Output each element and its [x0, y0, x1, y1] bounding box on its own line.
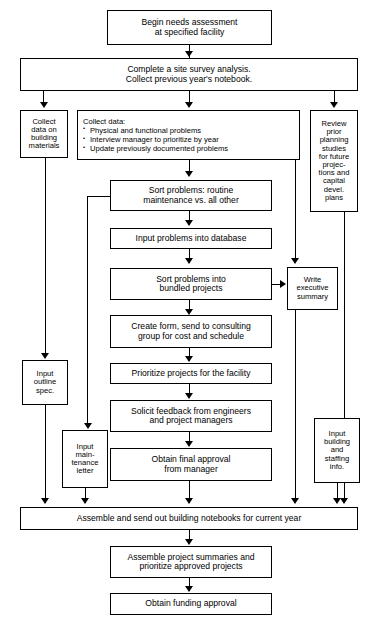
node-create-form: Create form, send to consulting group fo… [110, 315, 272, 348]
node-sort-bundled-projects: Sort problems into bundled projects [110, 268, 272, 300]
arrowhead-collect-to-exec [291, 258, 299, 264]
node-sort-routine-line2: maintenance vs. all other [143, 195, 239, 205]
node-site-survey-line2: Collect previous year's notebook. [126, 74, 252, 84]
arrowhead-review-to-assemble [340, 498, 348, 504]
arrowhead-prioritize-to-solicit [185, 393, 193, 399]
node-maint-line4: letter [77, 466, 94, 475]
arrowhead-approval-to-assemble [185, 498, 193, 504]
node-assemble-notebooks: Assemble and send out building notebooks… [20, 507, 358, 530]
arrowhead-materials-to-outline [41, 353, 49, 359]
node-summaries-line2: prioritize approved projects [139, 561, 242, 571]
node-obtain-funding-approval: Obtain funding approval [110, 593, 272, 615]
node-input-database-line1: Input problems into database [113, 234, 269, 243]
node-exec-line3: summary [297, 292, 328, 301]
arrowhead-bundled-to-exec [280, 280, 286, 288]
link-outline-to-assemble [45, 405, 46, 501]
link-exec-to-assemble [295, 310, 296, 501]
node-collect-data-item-3: Update previously documented problems [83, 144, 297, 153]
node-outline-line3: spec. [36, 386, 54, 395]
node-collect-data-header: Collect data: [83, 117, 297, 126]
node-input-outline-spec: Input outline spec. [22, 360, 68, 405]
arrowhead-begin-to-survey [185, 51, 193, 57]
arrowhead-sort-to-database [185, 220, 193, 226]
link-collect-to-exec [295, 160, 296, 260]
node-review-line10: plans [325, 193, 343, 202]
node-assemble-notebooks-line1: Assemble and send out building notebooks… [23, 514, 355, 523]
node-begin-needs-assessment: Begin needs assessment at specified faci… [107, 10, 272, 45]
arrowhead-survey-to-review [330, 102, 338, 108]
node-building-line5: info. [330, 462, 344, 471]
node-create-form-line2: group for cost and schedule [138, 331, 244, 341]
node-input-problems-database: Input problems into database [110, 228, 272, 249]
node-collect-building-materials: Collect data on building materials [20, 110, 68, 158]
arrowhead-sort-to-maintenance [84, 423, 92, 429]
node-collect-data-item-2: Interview manager to prioritize by year [83, 135, 297, 144]
node-bundled-line2: bundled projects [159, 283, 222, 293]
node-assemble-summaries: Assemble project summaries and prioritiz… [110, 546, 272, 578]
node-approval-line2: from manager [164, 464, 218, 474]
arrowhead-survey-to-materials [40, 102, 48, 108]
node-obtain-final-approval: Obtain final approval from manager [110, 448, 272, 481]
node-input-building-staffing: Input building and staffing info. [314, 418, 360, 483]
arrowhead-building-to-assemble [333, 498, 341, 504]
node-prioritize-projects: Prioritize projects for the facility [110, 363, 272, 384]
flowchart-canvas: Begin needs assessment at specified faci… [0, 0, 378, 624]
node-prioritize-line1: Prioritize projects for the facility [113, 369, 269, 378]
arrowhead-survey-to-collect [185, 102, 193, 108]
node-collect-data-item-1: Physical and functional problems [83, 126, 297, 135]
node-write-executive-summary: Write executive summary [287, 267, 338, 310]
arrowhead-database-to-bundled [185, 258, 193, 264]
node-materials-line4: materials [29, 141, 60, 150]
arrowhead-summaries-to-funding [185, 586, 193, 592]
arrowhead-notebooks-to-summaries [185, 539, 193, 545]
arrowhead-outline-to-assemble [41, 498, 49, 504]
node-begin-line2: at specified facility [155, 27, 225, 37]
node-solicit-line2: and project managers [149, 415, 232, 425]
arrowhead-maintenance-to-assemble [81, 498, 89, 504]
arrowhead-exec-to-assemble [291, 498, 299, 504]
node-sort-routine-maintenance: Sort problems: routine maintenance vs. a… [110, 180, 272, 211]
link-sort-branch-vertical [87, 196, 88, 424]
link-materials-to-outline [45, 158, 46, 354]
node-review-prior-planning: Review prior planning studies for future… [310, 110, 358, 212]
arrowhead-createform-to-prioritize [185, 356, 193, 362]
node-collect-data-list: Physical and functional problems Intervi… [83, 126, 297, 154]
node-solicit-feedback: Solicit feedback from engineers and proj… [110, 400, 272, 432]
node-input-maintenance-letter: Input main- tenance letter [62, 430, 108, 488]
arrowhead-solicit-to-approval [185, 441, 193, 447]
arrowhead-collect-to-sort [185, 171, 193, 177]
node-funding-line1: Obtain funding approval [113, 599, 269, 608]
node-collect-data: Collect data: Physical and functional pr… [77, 110, 300, 160]
link-sort-branch-horizontal [87, 196, 111, 197]
node-site-survey: Complete a site survey analysis. Collect… [20, 58, 358, 91]
